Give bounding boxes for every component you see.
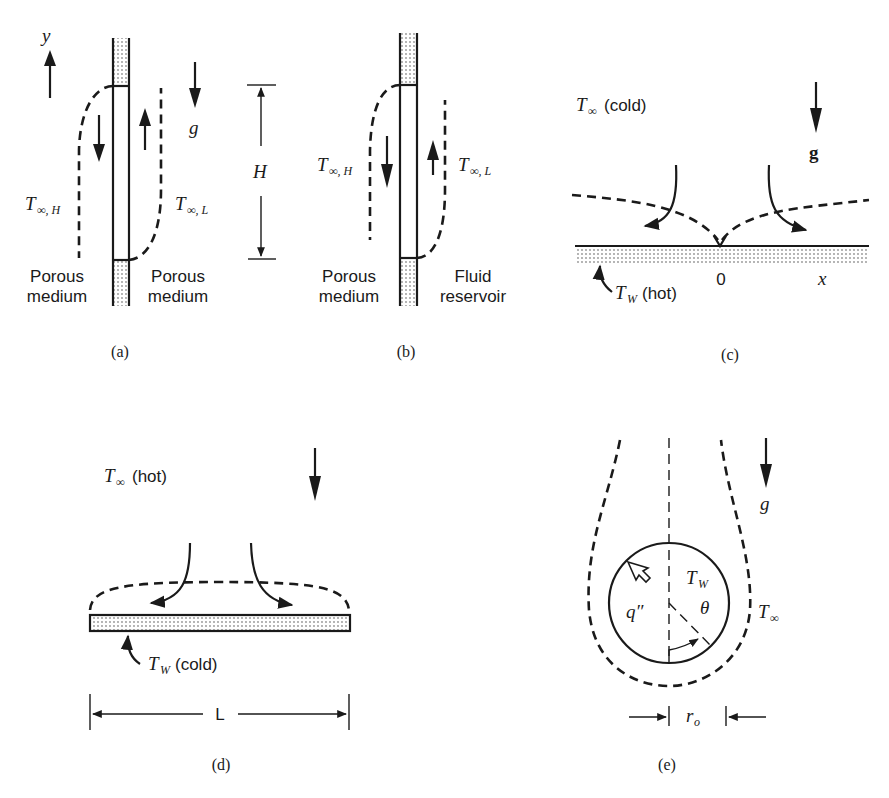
left-streamline-arrow-icon <box>645 165 676 226</box>
right-boundary-layer <box>722 200 869 240</box>
svg-text:Fluid: Fluid <box>455 267 492 286</box>
svg-text:reservoir: reservoir <box>440 287 506 306</box>
svg-text:(cold): (cold) <box>604 96 647 115</box>
svg-text:∞: ∞ <box>770 611 779 625</box>
left-streamline-arrow-icon <box>151 543 190 603</box>
caption-d: (d) <box>212 756 231 774</box>
svg-text:∞: ∞ <box>588 104 597 118</box>
gravity-label: g <box>189 117 199 138</box>
ambient-temperature-label: T ∞ (cold) <box>576 94 647 118</box>
panel-d: T ∞ (hot) T W (cold) L (d) <box>90 448 350 774</box>
wall-pointer-arrow-icon <box>600 266 612 292</box>
svg-text:Porous: Porous <box>30 267 84 286</box>
down-flow-arrow-icon <box>381 136 393 188</box>
svg-text:T: T <box>686 567 698 588</box>
svg-text:T: T <box>25 193 37 214</box>
svg-text:Porous: Porous <box>322 267 376 286</box>
svg-text:T: T <box>758 601 770 622</box>
svg-text:T: T <box>458 154 470 175</box>
svg-text:(hot): (hot) <box>642 284 677 303</box>
gravity-arrow-icon <box>760 438 772 488</box>
horizontal-plate <box>575 246 869 264</box>
svg-text:(cold): (cold) <box>175 655 218 674</box>
svg-text:medium: medium <box>319 287 379 306</box>
svg-text:medium: medium <box>148 287 208 306</box>
caption-c: (c) <box>721 346 739 364</box>
svg-text:T: T <box>615 282 627 303</box>
left-medium-label: Porous medium <box>27 267 87 306</box>
left-boundary-layer <box>370 85 400 240</box>
left-boundary-layer <box>79 86 113 258</box>
svg-text:W: W <box>698 577 709 591</box>
wall-temperature-label: T W (hot) <box>615 282 677 306</box>
svg-text:T: T <box>104 465 116 486</box>
svg-text:W: W <box>627 292 638 306</box>
wall-temperature-label: T W (cold) <box>148 653 218 677</box>
svg-text:(hot): (hot) <box>132 467 167 486</box>
svg-text:Porous: Porous <box>151 267 205 286</box>
svg-text:o: o <box>694 715 700 729</box>
left-temperature-label: T ∞, H <box>317 154 354 178</box>
ambient-temperature-label: T ∞ (hot) <box>104 465 167 489</box>
svg-text:∞, H: ∞, H <box>37 203 62 217</box>
vertical-wall <box>400 33 417 306</box>
ambient-temperature-label: T ∞ <box>758 601 779 625</box>
origin-label: 0 <box>716 270 725 289</box>
heat-flux-arrow-icon <box>628 562 650 582</box>
figure-canvas: y g <box>0 0 889 798</box>
x-axis-label: x <box>817 268 827 289</box>
right-streamline-arrow-icon <box>251 543 292 605</box>
caption-e: (e) <box>658 756 676 774</box>
svg-text:∞, H: ∞, H <box>329 164 354 178</box>
gravity-arrow-icon <box>810 82 822 133</box>
gravity-arrow-icon <box>309 448 321 501</box>
svg-text:T: T <box>148 653 160 674</box>
svg-text:T: T <box>576 94 588 115</box>
left-temperature-label: T ∞, H <box>25 193 62 217</box>
boundary-layer <box>90 582 349 610</box>
right-temperature-label: T ∞, L <box>458 154 492 178</box>
right-temperature-label: T ∞, L <box>175 193 209 217</box>
svg-text:T: T <box>317 154 329 175</box>
panel-e: g T W q″ θ T ∞ r o (e) <box>589 438 779 774</box>
y-axis-label: y <box>40 25 51 46</box>
svg-text:∞: ∞ <box>116 475 125 489</box>
up-flow-arrow-icon <box>427 140 439 175</box>
svg-text:∞, L: ∞, L <box>187 203 209 217</box>
heat-flux-label: q″ <box>626 601 645 622</box>
radius-label: r o <box>686 705 700 729</box>
svg-text:medium: medium <box>27 287 87 306</box>
angle-arrow-icon <box>669 639 698 663</box>
horizontal-plate <box>90 615 350 631</box>
svg-text:r: r <box>686 705 694 726</box>
svg-text:W: W <box>160 663 171 677</box>
gravity-label: g <box>809 142 819 163</box>
gravity-label: g <box>760 493 770 514</box>
length-label: L <box>215 705 224 724</box>
panel-a: y g <box>25 25 276 361</box>
svg-text:∞, L: ∞, L <box>470 164 492 178</box>
caption-a: (a) <box>111 343 129 361</box>
caption-b: (b) <box>397 343 416 361</box>
wall-temperature-label: T W <box>686 567 709 591</box>
gravity-arrow-icon <box>189 62 201 108</box>
left-boundary-layer <box>572 195 718 240</box>
right-medium-label: Fluid reservoir <box>440 267 506 306</box>
right-boundary-layer <box>417 100 445 258</box>
left-medium-label: Porous medium <box>319 267 379 306</box>
up-flow-arrow-icon <box>139 108 151 150</box>
vertical-wall <box>113 38 129 306</box>
right-medium-label: Porous medium <box>148 267 208 306</box>
down-flow-arrow-icon <box>93 115 105 162</box>
svg-text:T: T <box>175 193 187 214</box>
plume-root <box>714 236 726 246</box>
panel-c: T ∞ (cold) g T W (hot) 0 x (c) <box>572 82 869 364</box>
wall-pointer-arrow-icon <box>128 636 140 664</box>
angle-label: θ <box>700 597 709 618</box>
height-label: H <box>252 161 268 182</box>
y-axis-arrow-icon <box>44 50 56 98</box>
panel-b: T ∞, H T ∞, L Porous medium Fluid reserv… <box>317 33 506 361</box>
right-streamline-arrow-icon <box>769 165 806 230</box>
